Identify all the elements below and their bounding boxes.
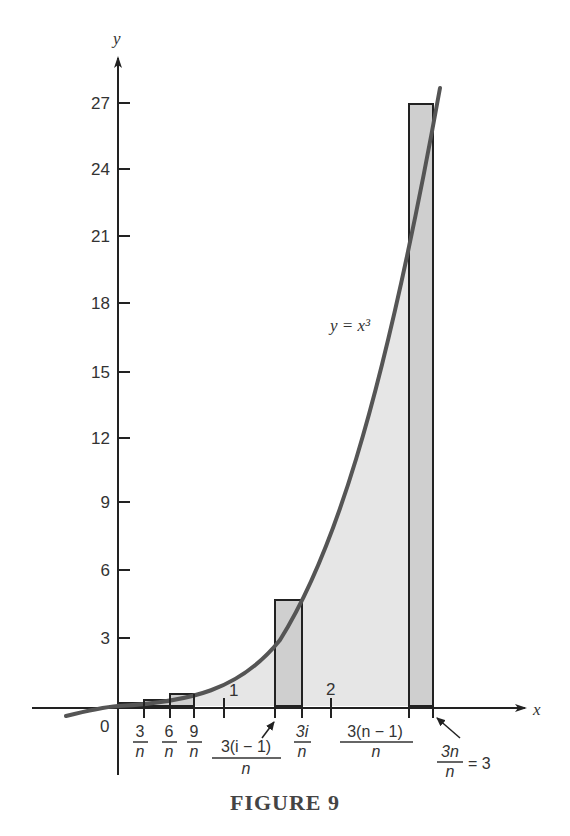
y-tick-label: 12 xyxy=(91,429,110,448)
y-axis-label: y xyxy=(111,29,121,48)
y-tick-label: 9 xyxy=(101,493,110,512)
svg-text:n: n xyxy=(298,743,307,760)
y-tick-label: 21 xyxy=(91,227,110,246)
fraction-label-6-over-n: 6 n xyxy=(162,723,177,760)
origin-label: 0 xyxy=(100,717,109,736)
svg-text:3(n − 1): 3(n − 1) xyxy=(347,723,403,740)
svg-text:3: 3 xyxy=(136,723,145,740)
y-tick-label: 15 xyxy=(91,363,110,382)
x-axis-label: x xyxy=(532,700,541,719)
fraction-label-3i-over-n: 3i n xyxy=(294,723,311,760)
figure-caption: FIGURE 9 xyxy=(0,790,570,816)
riemann-sum-figure: 3 6 9 12 15 18 21 24 27 y x 0 1 2 3 n 6 … xyxy=(0,0,570,836)
svg-text:= 3: = 3 xyxy=(468,755,491,772)
curve-label: y = x³ xyxy=(328,316,371,335)
arrow-to-3-i-minus-1-over-n xyxy=(262,722,274,738)
svg-text:n: n xyxy=(446,763,455,780)
svg-text:9: 9 xyxy=(190,723,199,740)
svg-text:6: 6 xyxy=(165,723,174,740)
y-tick-label: 24 xyxy=(91,160,110,179)
rectangle-i xyxy=(275,600,302,706)
svg-text:n: n xyxy=(136,743,145,760)
svg-text:n: n xyxy=(190,743,199,760)
fraction-label-3-over-n: 3 n xyxy=(133,723,148,760)
svg-text:n: n xyxy=(372,743,381,760)
arrow-to-3 xyxy=(437,718,460,738)
svg-text:3(i − 1): 3(i − 1) xyxy=(221,738,271,755)
y-tick-label: 6 xyxy=(101,561,110,580)
y-tick-label: 18 xyxy=(91,294,110,313)
fraction-label-3-n-minus-1-over-n: 3(n − 1) n xyxy=(340,723,413,760)
fraction-label-9-over-n: 9 n xyxy=(187,723,202,760)
svg-text:3i: 3i xyxy=(296,723,309,740)
fraction-label-3-i-minus-1-over-n: 3(i − 1) n xyxy=(212,738,281,777)
x-tick-label-1: 1 xyxy=(229,681,238,700)
y-tick-label: 27 xyxy=(91,94,110,113)
x-tick-label-2: 2 xyxy=(326,680,335,699)
svg-text:n: n xyxy=(242,760,251,777)
fraction-label-3n-over-n-equals-3: 3n n = 3 xyxy=(437,743,491,780)
svg-text:n: n xyxy=(165,743,174,760)
y-ticks xyxy=(118,103,130,638)
svg-text:3n: 3n xyxy=(441,743,459,760)
y-tick-label: 3 xyxy=(101,629,110,648)
